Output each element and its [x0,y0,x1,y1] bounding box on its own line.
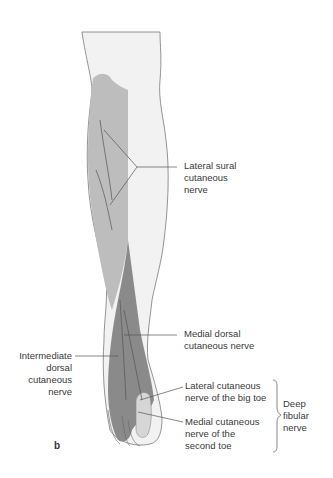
label-line: Medial cutaneous [185,416,259,428]
label-intermediate-dorsal-cutaneous-nerve: Intermediate dorsal cutaneous nerve [0,350,72,398]
label-lateral-sural-cutaneous-nerve: Lateral sural cutaneous nerve [184,160,236,196]
label-medial-dorsal-cutaneous-nerve: Medial dorsal cutaneous nerve [184,328,254,352]
label-line: nerve of the [185,428,259,440]
label-medial-cutaneous-nerve-second-toe: Medial cutaneous nerve of the second toe [185,416,259,452]
label-line: Lateral cutaneous [185,380,266,392]
label-line: Deep [283,398,309,410]
label-line: cutaneous [184,172,236,184]
label-line: nerve [0,386,72,398]
label-line: Medial dorsal [184,328,254,340]
label-lateral-cutaneous-nerve-big-toe: Lateral cutaneous nerve of the big toe [185,380,266,404]
label-line: fibular [283,410,309,422]
label-line: nerve of the big toe [185,392,266,404]
label-line: Intermediate [0,350,72,362]
deep-fibular-brace [273,380,281,452]
label-deep-fibular-nerve: Deep fibular nerve [283,398,309,434]
panel-letter: b [54,440,60,451]
leg-nerve-diagram: Lateral sural cutaneous nerve Medial dor… [0,0,333,478]
label-line: cutaneous [0,374,72,386]
label-line: nerve [283,422,309,434]
label-line: nerve [184,184,236,196]
label-line: second toe [185,440,259,452]
label-line: dorsal [0,362,72,374]
label-line: Lateral sural [184,160,236,172]
label-line: cutaneous nerve [184,340,254,352]
